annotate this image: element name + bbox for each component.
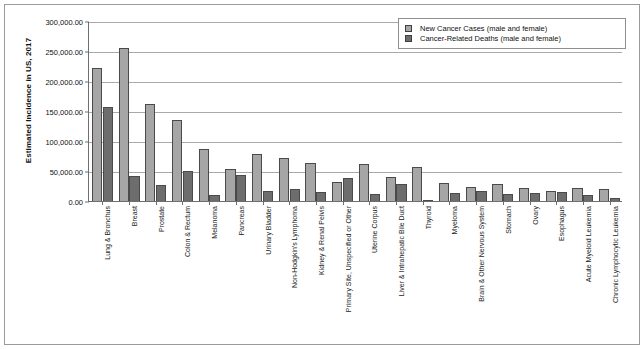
x-tick-mark	[396, 201, 397, 205]
x-axis-label: Esophagus	[558, 206, 565, 241]
bar-group	[116, 22, 143, 201]
x-tick-mark	[289, 201, 290, 205]
bar-deaths	[183, 171, 193, 201]
bar-deaths	[583, 195, 593, 201]
bar-group	[249, 22, 276, 201]
bar-deaths	[423, 200, 433, 201]
x-tick-mark	[102, 201, 103, 205]
x-axis-label: Uterine Corpus	[371, 206, 378, 253]
legend-label-deaths: Cancer-Related Deaths (male and female)	[420, 34, 561, 43]
y-tick-label: 0.00	[68, 198, 83, 207]
bar-new-cases	[305, 163, 315, 201]
bar-new-cases	[145, 104, 155, 201]
x-axis-label: Lung & Bronchus	[104, 206, 111, 260]
bar-new-cases	[119, 48, 129, 201]
plot-area: 300,000.00250,000.00200,000.00150,000.00…	[88, 22, 622, 202]
y-tick-label: 250,000.00	[45, 48, 83, 57]
bar-deaths	[263, 191, 273, 201]
bar-deaths	[370, 194, 380, 201]
x-axis-label: Melanoma	[211, 206, 218, 239]
bar-group	[89, 22, 116, 201]
x-tick-mark	[423, 201, 424, 205]
bar-group	[276, 22, 303, 201]
bar-new-cases	[412, 167, 422, 201]
bar-deaths	[129, 176, 139, 201]
y-tick-label: 300,000.00	[45, 18, 83, 27]
bar-deaths	[156, 185, 166, 201]
bar-new-cases	[199, 149, 209, 201]
bar-new-cases	[546, 191, 556, 201]
x-axis-label: Kidney & Renal Pelvis	[318, 206, 325, 275]
bar-new-cases	[439, 183, 449, 201]
bar-deaths	[610, 198, 620, 201]
x-axis-label: Breast	[131, 206, 138, 226]
x-tick-mark	[476, 201, 477, 205]
x-tick-mark	[343, 201, 344, 205]
bar-new-cases	[492, 184, 502, 201]
bar-group	[303, 22, 330, 201]
x-tick-mark	[129, 201, 130, 205]
x-tick-mark	[156, 201, 157, 205]
bar-deaths	[450, 193, 460, 201]
x-axis-label: Non-Hodgkin's Lymphoma	[291, 206, 298, 288]
x-axis-label: Colon & Rectum	[184, 206, 191, 257]
x-axis-label: Urinary Bladder	[265, 206, 272, 255]
bar-new-cases	[599, 189, 609, 201]
x-tick-mark	[182, 201, 183, 205]
bar-new-cases	[572, 188, 582, 201]
bar-new-cases	[252, 154, 262, 201]
x-tick-mark	[209, 201, 210, 205]
legend-swatch-deaths-icon	[405, 35, 412, 42]
x-tick-mark	[236, 201, 237, 205]
bar-group	[223, 22, 250, 201]
bar-deaths	[236, 175, 246, 201]
x-axis-label: Primary Site, Unspecified or Other	[345, 206, 352, 312]
bar-deaths	[290, 189, 300, 201]
y-tick-label: 200,000.00	[45, 78, 83, 87]
legend-item-new-cancer-cases: New Cancer Cases (male and female)	[405, 24, 619, 33]
x-axis-label: Pancreas	[238, 206, 245, 236]
legend-label-cases: New Cancer Cases (male and female)	[420, 24, 547, 33]
bar-deaths	[316, 192, 326, 201]
bar-deaths	[103, 107, 113, 201]
chart-legend: New Cancer Cases (male and female) Cance…	[398, 18, 626, 49]
x-axis-label: Acute Myeloid Leukemia	[585, 206, 592, 282]
bar-deaths	[557, 192, 567, 201]
bar-new-cases	[386, 177, 396, 201]
x-tick-mark	[503, 201, 504, 205]
bar-deaths	[530, 193, 540, 201]
legend-item-cancer-related-deaths: Cancer-Related Deaths (male and female)	[405, 34, 619, 43]
x-axis-label: Chronic Lymphocytic Leukemia	[612, 206, 619, 303]
x-axis-label: Liver & Intrahepatic Bile Duct	[398, 206, 405, 296]
x-axis-label: Thyroid	[425, 206, 432, 229]
bar-new-cases	[279, 158, 289, 201]
x-tick-mark	[610, 201, 611, 205]
x-tick-mark	[263, 201, 264, 205]
x-tick-mark	[530, 201, 531, 205]
bar-deaths	[396, 184, 406, 201]
bar-group	[329, 22, 356, 201]
y-tick-mark	[85, 202, 89, 203]
x-axis-label: Prostate	[158, 206, 165, 232]
bar-group	[169, 22, 196, 201]
x-tick-mark	[449, 201, 450, 205]
x-tick-mark	[316, 201, 317, 205]
bar-deaths	[476, 191, 486, 201]
bar-deaths	[343, 178, 353, 201]
x-axis-label: Ovary	[532, 206, 539, 225]
bar-new-cases	[225, 169, 235, 201]
x-tick-mark	[583, 201, 584, 205]
y-tick-label: 150,000.00	[45, 108, 83, 117]
legend-swatch-cases-icon	[405, 25, 412, 32]
bar-deaths	[503, 194, 513, 201]
bar-new-cases	[466, 187, 476, 201]
bar-group	[142, 22, 169, 201]
bar-new-cases	[172, 120, 182, 201]
bar-new-cases	[92, 68, 102, 202]
bar-deaths	[209, 195, 219, 201]
y-tick-label: 50,000.00	[50, 168, 83, 177]
x-axis-label: Brain & Other Nervous System	[478, 206, 485, 302]
x-tick-mark	[369, 201, 370, 205]
x-tick-mark	[556, 201, 557, 205]
y-tick-label: 100,000.00	[45, 138, 83, 147]
